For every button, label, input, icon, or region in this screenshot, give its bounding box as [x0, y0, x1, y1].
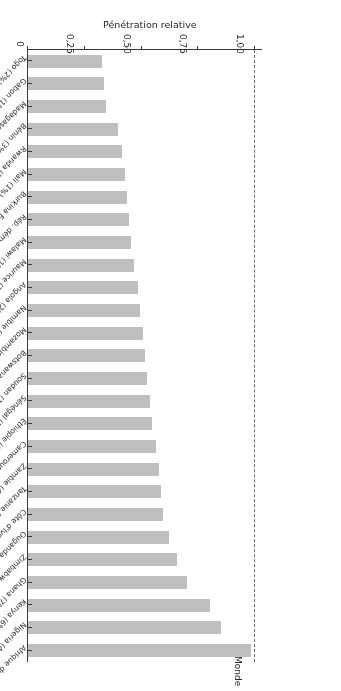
- y-tick: [28, 310, 32, 311]
- bar-fill: [28, 554, 177, 567]
- bar-fill: [28, 372, 147, 385]
- bar-fill: [28, 463, 159, 476]
- y-axis-line: [27, 50, 28, 662]
- bar: [28, 644, 262, 657]
- bar: [28, 168, 262, 181]
- bar: [28, 531, 262, 544]
- x-tick-label: 1,00: [235, 34, 245, 54]
- bar-fill: [28, 100, 106, 113]
- x-tick: [84, 46, 85, 50]
- bar: [28, 78, 262, 91]
- y-tick: [28, 559, 32, 560]
- y-tick: [28, 378, 32, 379]
- y-tick: [28, 196, 32, 197]
- y-tick: [28, 128, 32, 129]
- bar-fill: [28, 304, 140, 317]
- bar-fill: [28, 418, 152, 431]
- bar: [28, 576, 262, 589]
- y-tick: [28, 423, 32, 424]
- bar-fill: [28, 395, 150, 408]
- y-tick: [28, 400, 32, 401]
- y-tick: [28, 355, 32, 356]
- y-tick: [28, 627, 32, 628]
- bar: [28, 350, 262, 363]
- bar-fill: [28, 508, 163, 521]
- bar-fill: [28, 440, 156, 453]
- x-tick-label: 0,25: [65, 34, 75, 54]
- x-tick: [141, 46, 142, 50]
- plot-panel: [28, 50, 262, 662]
- x-axis-title: Pénétration relative: [103, 19, 197, 30]
- bar-fill: [28, 282, 138, 295]
- bar-fill: [28, 644, 251, 657]
- bar-fill: [28, 599, 210, 612]
- y-tick: [28, 446, 32, 447]
- x-tick: [197, 46, 198, 50]
- y-tick: [28, 174, 32, 175]
- y-tick: [28, 106, 32, 107]
- y-tick: [28, 219, 32, 220]
- bar: [28, 236, 262, 249]
- x-tick-label: 0,50: [122, 34, 132, 54]
- bar: [28, 55, 262, 68]
- bar-fill: [28, 123, 118, 136]
- bar: [28, 463, 262, 476]
- bar-fill: [28, 214, 129, 227]
- bar: [28, 146, 262, 159]
- bar-fill: [28, 622, 221, 635]
- monde-reference-label: Monde: [233, 656, 243, 686]
- x-tick-label: 0,75: [178, 34, 188, 54]
- bar-chart-figure: Monde 00,250,500,751,00 Afrique du Sud (…: [0, 0, 341, 691]
- bar: [28, 100, 262, 113]
- y-tick: [28, 536, 32, 537]
- y-tick: [28, 582, 32, 583]
- bar-fill: [28, 236, 131, 249]
- y-tick: [28, 650, 32, 651]
- y-tick: [28, 287, 32, 288]
- bar-fill: [28, 327, 143, 340]
- bar: [28, 327, 262, 340]
- bar-fill: [28, 486, 161, 499]
- bar: [28, 282, 262, 295]
- y-tick: [28, 264, 32, 265]
- y-tick: [28, 60, 32, 61]
- x-tick-label: 0: [15, 41, 25, 47]
- bar: [28, 259, 262, 272]
- bar-fill: [28, 576, 187, 589]
- bar: [28, 418, 262, 431]
- y-tick: [28, 83, 32, 84]
- bar: [28, 214, 262, 227]
- bar: [28, 372, 262, 385]
- bar: [28, 486, 262, 499]
- x-tick: [27, 46, 28, 50]
- bar-fill: [28, 146, 122, 159]
- bar-fill: [28, 259, 134, 272]
- bar-fill: [28, 168, 125, 181]
- y-tick: [28, 332, 32, 333]
- bar: [28, 191, 262, 204]
- bar: [28, 440, 262, 453]
- bar-fill: [28, 55, 102, 68]
- y-tick: [28, 468, 32, 469]
- bar: [28, 123, 262, 136]
- x-tick: [254, 46, 255, 50]
- bar: [28, 395, 262, 408]
- bar: [28, 554, 262, 567]
- bar: [28, 599, 262, 612]
- y-tick: [28, 242, 32, 243]
- bar-fill: [28, 350, 145, 363]
- bar-fill: [28, 531, 169, 544]
- bar-fill: [28, 78, 104, 91]
- bar: [28, 622, 262, 635]
- bar-fill: [28, 191, 127, 204]
- y-tick: [28, 491, 32, 492]
- bar: [28, 304, 262, 317]
- y-tick: [28, 514, 32, 515]
- x-axis-line: [28, 49, 262, 50]
- y-tick: [28, 151, 32, 152]
- rotated-figure-wrapper: Monde 00,250,500,751,00 Afrique du Sud (…: [0, 0, 341, 691]
- y-tick: [28, 604, 32, 605]
- bar: [28, 508, 262, 521]
